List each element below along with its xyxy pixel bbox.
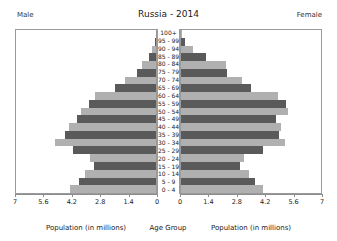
male-bar	[90, 154, 156, 162]
female-bar	[181, 61, 226, 69]
male-bar	[70, 185, 156, 193]
age-group-label: 50 - 54	[158, 108, 179, 116]
bar-row	[181, 185, 321, 193]
axis-tick-label: 2.8	[95, 198, 105, 206]
female-plot-area	[180, 29, 322, 194]
bar-row	[16, 170, 156, 178]
age-group-label: 95 - 99	[158, 37, 179, 45]
bar-row	[16, 69, 156, 77]
male-x-axis: 01.42.84.25.67	[15, 194, 157, 208]
axis-tick	[322, 194, 323, 197]
chart-title: Russia - 2014	[0, 9, 337, 19]
age-group-label: 30 - 34	[158, 139, 179, 147]
bar-row	[181, 69, 321, 77]
axis-tick-label: 5.6	[38, 198, 48, 206]
bar-row	[181, 30, 321, 38]
bar-row	[181, 131, 321, 139]
axis-tick	[43, 194, 44, 197]
male-bar-rows	[16, 30, 156, 193]
female-bar	[181, 123, 281, 131]
axis-tick-label: 4.2	[260, 198, 270, 206]
axis-tick-label: 7	[320, 198, 324, 206]
bar-row	[16, 100, 156, 108]
age-group-label: 45 - 49	[158, 115, 179, 123]
male-bar	[89, 100, 156, 108]
bar-row	[16, 139, 156, 147]
female-bar	[181, 69, 227, 77]
bar-row	[181, 92, 321, 100]
female-bar	[181, 185, 263, 193]
axis-tick-label: 1.4	[123, 198, 133, 206]
female-bar-rows	[181, 30, 321, 193]
female-bar	[181, 139, 285, 147]
age-group-label: 5 - 9	[158, 178, 179, 186]
bar-row	[181, 61, 321, 69]
axis-tick	[237, 194, 238, 197]
female-bar	[181, 108, 288, 116]
male-bar	[65, 131, 156, 139]
axis-tick-label: 0	[178, 198, 182, 206]
age-group-label: 20 - 24	[158, 155, 179, 163]
axis-tick	[294, 194, 295, 197]
female-bar	[181, 178, 255, 186]
age-group-label: 40 - 44	[158, 123, 179, 131]
male-bar	[69, 123, 156, 131]
bar-row	[181, 53, 321, 61]
female-axis-line	[180, 194, 322, 195]
male-bar	[85, 170, 156, 178]
male-bar	[81, 108, 156, 116]
axis-tick-label: 2.8	[232, 198, 242, 206]
bar-row	[181, 123, 321, 131]
female-bar	[181, 84, 251, 92]
right-axis-caption: Population (in millions)	[211, 224, 291, 232]
bar-row	[181, 170, 321, 178]
bar-row	[181, 108, 321, 116]
male-bar	[73, 146, 156, 154]
female-bar	[181, 154, 244, 162]
bar-row	[16, 46, 156, 54]
population-pyramid-chart: Male Russia - 2014 Female 100+95 - 9990 …	[0, 0, 337, 241]
axis-tick	[180, 194, 181, 197]
male-plot-area	[15, 29, 157, 194]
female-side-label: Female	[297, 11, 322, 19]
bar-row	[16, 84, 156, 92]
male-bar	[137, 69, 156, 77]
axis-tick	[15, 194, 16, 197]
axis-tick	[157, 194, 158, 197]
bar-row	[16, 92, 156, 100]
bar-row	[16, 53, 156, 61]
female-bar	[181, 38, 185, 46]
axis-tick-label: 7	[13, 198, 17, 206]
age-group-label: 15 - 19	[158, 163, 179, 171]
bar-row	[181, 84, 321, 92]
age-group-label: 100+	[158, 29, 179, 37]
axis-tick	[129, 194, 130, 197]
bar-row	[16, 108, 156, 116]
female-bar	[181, 30, 182, 38]
age-group-label: 80 - 84	[158, 60, 179, 68]
female-bar	[181, 77, 242, 85]
bar-row	[16, 131, 156, 139]
axis-tick	[265, 194, 266, 197]
bar-row	[181, 178, 321, 186]
center-axis-caption: Age Group	[149, 224, 186, 232]
age-group-axis: 100+95 - 9990 - 9485 - 8980 - 8475 - 797…	[157, 29, 180, 194]
bar-row	[181, 115, 321, 123]
bar-row	[16, 30, 156, 38]
female-bar	[181, 162, 240, 170]
bar-row	[16, 123, 156, 131]
female-bar	[181, 53, 206, 61]
male-bar	[115, 84, 156, 92]
male-bar	[94, 162, 156, 170]
age-group-label: 90 - 94	[158, 45, 179, 53]
female-bar	[181, 146, 263, 154]
male-bar	[155, 38, 156, 46]
age-group-label: 35 - 39	[158, 131, 179, 139]
bar-row	[16, 178, 156, 186]
male-bar	[152, 46, 156, 54]
axis-tick	[208, 194, 209, 197]
age-group-label: 75 - 79	[158, 68, 179, 76]
bar-row	[16, 61, 156, 69]
male-bar	[55, 139, 156, 147]
left-axis-caption: Population (in millions)	[46, 224, 126, 232]
